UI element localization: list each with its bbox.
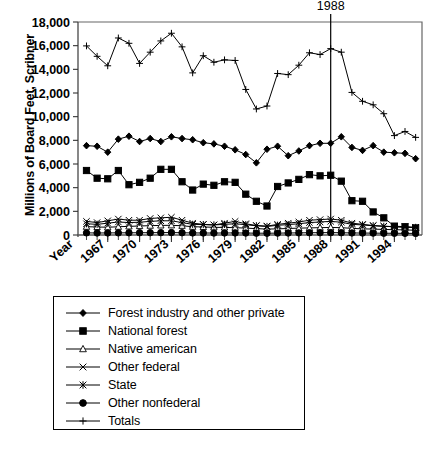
- open-triangle-icon: [62, 340, 104, 358]
- y-tick-label: 4,000: [39, 181, 70, 195]
- legend-label: Forest industry and other private: [104, 306, 285, 320]
- legend-item-0[interactable]: Forest industry and other private: [54, 304, 304, 322]
- x-tick-label: 1967: [78, 237, 108, 266]
- x-tick-label: 1973: [141, 237, 171, 266]
- legend-item-1[interactable]: National forest: [54, 322, 304, 340]
- series-1: [83, 166, 418, 231]
- x-tick-label: 1979: [205, 237, 235, 266]
- legend-item-6[interactable]: Totals: [54, 412, 304, 430]
- y-tick-label: 12,000: [32, 87, 70, 101]
- asterisk-icon: [62, 376, 104, 394]
- series-6: [83, 30, 419, 141]
- series-0: [83, 133, 418, 166]
- y-tick-label: 10,000: [32, 110, 70, 124]
- x-axis-title: Year: [47, 237, 76, 265]
- legend-item-5[interactable]: Other nonfederal: [54, 394, 304, 412]
- x-tick-label: 1982: [237, 237, 267, 266]
- x-tick-label: 1976: [173, 237, 203, 266]
- chart-page: Millions of Board Feet, Scribner 02,0004…: [0, 0, 436, 468]
- x-tick-label: 1994: [364, 237, 394, 266]
- y-tick-label: 16,000: [32, 39, 70, 53]
- legend-label: Other nonfederal: [104, 396, 200, 410]
- legend-label: National forest: [104, 324, 187, 338]
- series-2: [83, 222, 419, 233]
- x-tick-label: 1991: [333, 237, 363, 266]
- filled-diamond-icon: [62, 304, 104, 322]
- legend-item-2[interactable]: Native american: [54, 340, 304, 358]
- line-chart-plot: 02,0004,0006,0008,00010,00012,00014,0001…: [0, 0, 436, 292]
- x-tick-label: 1970: [110, 237, 140, 266]
- chart-legend: Forest industry and other privateNationa…: [53, 296, 305, 430]
- y-tick-label: 18,000: [32, 16, 70, 30]
- y-tick-label: 2,000: [39, 205, 70, 219]
- y-tick-label: 8,000: [39, 134, 70, 148]
- legend-label: Native american: [104, 342, 197, 356]
- legend-label: State: [104, 378, 137, 392]
- x-tick-label: 1988: [301, 237, 331, 266]
- legend-item-3[interactable]: Other federal: [54, 358, 304, 376]
- filled-square-icon: [62, 322, 104, 340]
- y-tick-label: 14,000: [32, 63, 70, 77]
- legend-label: Other federal: [104, 360, 180, 374]
- x-tick-label: 1985: [269, 237, 299, 266]
- y-tick-label: 6,000: [39, 158, 70, 172]
- legend-label: Totals: [104, 414, 140, 428]
- x-mark-icon: [62, 358, 104, 376]
- legend-item-4[interactable]: State: [54, 376, 304, 394]
- plus-icon: [62, 412, 104, 430]
- filled-circle-icon: [62, 394, 104, 412]
- reference-line-label: 1988: [317, 0, 345, 13]
